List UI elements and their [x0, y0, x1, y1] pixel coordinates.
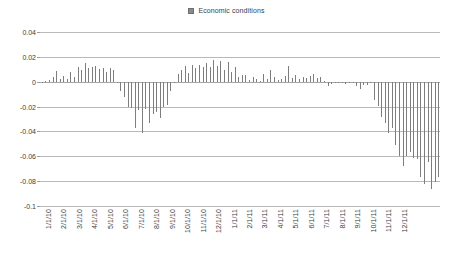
bar: [278, 80, 279, 81]
bar: [403, 82, 404, 167]
y-axis-tick-label: -0.04: [20, 128, 36, 135]
bar: [417, 82, 418, 160]
bar: [256, 79, 257, 82]
x-axis-tick-label: 1/1/10: [45, 209, 52, 229]
legend-label: Economic conditions: [198, 7, 264, 14]
bar: [160, 82, 161, 118]
bar: [267, 79, 268, 82]
plot-area: [40, 32, 440, 206]
x-axis-tick-label: 8/1/11: [339, 209, 346, 229]
bar: [395, 82, 396, 145]
y-axis-tick-label: 0: [32, 78, 36, 85]
bar: [228, 62, 229, 81]
bar: [438, 82, 439, 178]
bar: [413, 82, 414, 158]
y-axis-tickmark: [37, 82, 40, 83]
bar: [235, 67, 236, 81]
x-axis-tick-label: 9/1/10: [169, 209, 176, 229]
y-axis-tick-label: -0.08: [20, 178, 36, 185]
bar: [81, 70, 82, 82]
bar: [192, 65, 193, 82]
bar: [370, 82, 371, 83]
x-axis-tick-label: 2/1/11: [246, 209, 253, 229]
bar: [338, 82, 339, 83]
bar: [378, 82, 379, 106]
bar: [285, 76, 286, 82]
bar: [213, 60, 214, 81]
x-axis-tick-label: 9/1/11: [354, 209, 361, 229]
bar: [224, 70, 225, 82]
bar: [263, 74, 264, 82]
x-axis-tick-label: 8/1/10: [153, 209, 160, 229]
bar: [145, 82, 146, 110]
bar: [303, 77, 304, 82]
bar: [253, 77, 254, 82]
bar: [156, 82, 157, 112]
bar: [199, 65, 200, 82]
x-axis-tick-label: 12/1/10: [215, 209, 222, 233]
bar: [70, 72, 71, 82]
chart-legend: Economic conditions: [0, 7, 453, 14]
y-axis-tickmark: [37, 32, 40, 33]
bar: [374, 82, 375, 101]
bar: [392, 82, 393, 128]
y-axis-labels: 0.040.020-0.02-0.04-0.06-0.08-0.1: [0, 32, 36, 206]
bar: [217, 66, 218, 82]
y-axis-tick-label: -0.02: [20, 103, 36, 110]
bar: [406, 82, 407, 157]
bar: [78, 67, 79, 82]
bar: [313, 74, 314, 82]
bar: [53, 77, 54, 81]
bar: [49, 80, 50, 81]
bar: [85, 63, 86, 81]
bar: [420, 82, 421, 178]
bar: [60, 79, 61, 81]
bar: [238, 77, 239, 81]
y-axis-tickmark: [37, 206, 40, 207]
bar: [67, 79, 68, 82]
bar: [299, 79, 300, 82]
bar: [331, 82, 332, 84]
bar: [399, 82, 400, 157]
x-axis-tick-label: 4/1/10: [91, 209, 98, 229]
bar: [203, 67, 204, 82]
bar: [178, 74, 179, 81]
x-axis-tick-label: 5/1/10: [107, 209, 114, 229]
bar: [349, 82, 350, 83]
y-axis-tickmark: [37, 57, 40, 58]
bar: [131, 82, 132, 108]
y-axis-tickmark: [37, 131, 40, 132]
x-axis-tick-label: 11/1/11: [385, 209, 392, 232]
bar: [353, 82, 354, 83]
bar: [424, 82, 425, 184]
bar: [335, 82, 336, 83]
x-axis-tick-label: 12/1/11: [401, 209, 408, 233]
x-axis-tick-label: 7/1/10: [138, 209, 145, 229]
bar: [288, 66, 289, 82]
bar: [210, 67, 211, 82]
bar: [310, 76, 311, 82]
legend-swatch-icon: [188, 8, 194, 14]
bar: [42, 82, 43, 83]
bar: [274, 77, 275, 82]
bar: [142, 82, 143, 133]
bar: [324, 81, 325, 82]
x-axis-tick-label: 7/1/11: [323, 209, 330, 229]
bar: [356, 82, 357, 86]
bar: [117, 82, 118, 83]
bar: [135, 82, 136, 129]
bar: [63, 76, 64, 82]
x-axis-tick-label: 10/1/11: [370, 209, 377, 233]
bar: [149, 82, 150, 123]
x-axis-tick-label: 2/1/10: [60, 209, 67, 229]
y-axis-tick-label: -0.1: [24, 203, 36, 210]
bar: [92, 67, 93, 82]
bar: [281, 79, 282, 81]
bar: [128, 82, 129, 107]
y-axis-tick-label: -0.06: [20, 153, 36, 160]
bar: [381, 82, 382, 117]
y-axis-tickmark: [37, 156, 40, 157]
x-axis-tick-label: 10/1/10: [184, 209, 191, 233]
bar: [206, 63, 207, 81]
bar: [138, 82, 139, 110]
